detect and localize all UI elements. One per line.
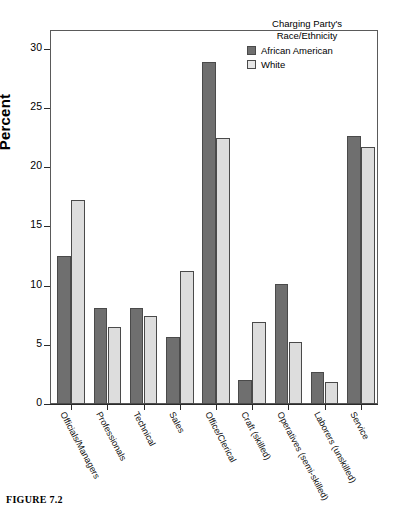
y-axis-tick: 5	[0, 345, 50, 346]
legend-item: African American	[237, 45, 377, 56]
y-axis-title: Percent	[0, 62, 13, 182]
bar	[311, 372, 325, 404]
bar	[289, 342, 303, 404]
x-axis-tick	[107, 404, 108, 410]
y-axis-tick-mark	[44, 49, 50, 50]
x-axis-tick-label: Sales	[167, 410, 186, 435]
bar-group	[275, 31, 303, 404]
bar	[130, 308, 144, 404]
bar	[238, 380, 252, 404]
y-axis-tick-mark	[44, 108, 50, 109]
legend-swatch	[247, 60, 256, 69]
x-axis-tick	[144, 404, 145, 410]
legend-title-line2: Race/Ethnicity	[237, 30, 377, 42]
bar	[347, 136, 361, 404]
y-axis-tick-label: 25	[30, 100, 42, 112]
bar-group	[311, 31, 339, 404]
bar	[202, 62, 216, 404]
y-axis-tick-label: 10	[30, 278, 42, 290]
bar-group	[347, 31, 375, 404]
plot-area	[51, 31, 377, 404]
y-axis-tick-mark	[44, 226, 50, 227]
bar-group	[238, 31, 266, 404]
y-axis-tick-label: 20	[30, 159, 42, 171]
legend-label: African American	[261, 45, 333, 56]
bar	[57, 256, 71, 404]
bar	[166, 337, 180, 404]
legend-swatch	[247, 46, 256, 55]
x-axis-tick	[216, 404, 217, 410]
bar-group	[57, 31, 85, 404]
x-axis-tick	[180, 404, 181, 410]
legend-item: White	[237, 59, 377, 70]
y-axis-tick-label: 15	[30, 218, 42, 230]
legend-label: White	[261, 59, 285, 70]
bar	[94, 308, 108, 404]
bar	[71, 200, 85, 404]
figure-container: Percent 051015202530 Officials/ManagersP…	[0, 0, 404, 524]
legend-entries: African AmericanWhite	[237, 45, 377, 70]
x-axis-tick	[252, 404, 253, 410]
bar-group	[130, 31, 158, 404]
legend-title-line1: Charging Party's	[237, 18, 377, 30]
x-axis-tick	[361, 404, 362, 410]
x-axis-tick-label: Office/Clerical	[203, 410, 238, 464]
x-axis-tick	[71, 404, 72, 410]
x-axis-tick-label: Technical	[131, 410, 157, 448]
bar	[108, 327, 122, 404]
bar	[144, 316, 158, 404]
y-axis-tick-mark	[44, 286, 50, 287]
y-axis-tick: 15	[0, 226, 50, 227]
x-axis-tick-label: Officials/Managers	[58, 410, 102, 480]
x-axis-tick-label: Craft (skilled)	[239, 410, 273, 462]
y-axis-tick-mark	[44, 167, 50, 168]
x-axis-line	[50, 404, 378, 405]
bar-group	[202, 31, 230, 404]
y-axis-tick-label: 0	[36, 396, 42, 408]
y-axis-tick-mark	[44, 345, 50, 346]
y-axis-tick-label: 5	[36, 337, 42, 349]
y-axis-tick: 10	[0, 286, 50, 287]
x-axis-tick	[288, 404, 289, 410]
x-axis-tick	[325, 404, 326, 410]
y-axis-tick-label: 30	[30, 41, 42, 53]
bar	[180, 271, 194, 404]
y-axis-tick: 20	[0, 167, 50, 168]
y-axis-tick: 25	[0, 108, 50, 109]
bar	[252, 322, 266, 404]
chart-legend: Charging Party's Race/Ethnicity African …	[237, 18, 377, 70]
bar	[361, 147, 375, 404]
y-axis-tick: 30	[0, 49, 50, 50]
figure-caption: FIGURE 7.2	[6, 494, 63, 505]
x-axis-tick-label: Service	[348, 410, 371, 441]
bar-group	[166, 31, 194, 404]
bar	[275, 284, 289, 404]
bar	[216, 138, 230, 404]
x-axis-tick-label: Professionals	[94, 410, 128, 462]
bar-group	[94, 31, 122, 404]
y-axis-tick: 0	[0, 404, 50, 405]
bar	[325, 382, 339, 404]
